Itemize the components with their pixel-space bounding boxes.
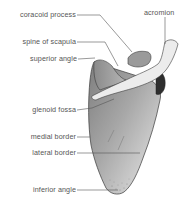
label-coracoid-process: coracoid process <box>20 11 76 18</box>
label-lateral-border: lateral border <box>32 149 76 156</box>
label-superior-angle: superior angle <box>30 55 77 62</box>
label-medial-border: medial border <box>31 133 76 140</box>
label-acromion: acromion <box>144 9 174 16</box>
label-inferior-angle: inferior angle <box>33 186 76 193</box>
leader-coracoid-process <box>77 15 132 52</box>
leader-superior-angle <box>78 58 95 59</box>
label-spine-of-scapula: spine of scapula <box>22 38 76 45</box>
scapula-illustration <box>0 0 189 199</box>
label-glenoid-fossa: glenoid fossa <box>32 106 76 113</box>
coracoid-process-shape <box>128 51 151 67</box>
